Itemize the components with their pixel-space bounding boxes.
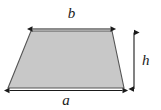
label-bottom-side-a: a xyxy=(0,93,132,108)
trapezoid-figure: b a h xyxy=(0,0,161,110)
label-height-h: h xyxy=(142,53,150,68)
label-top-side-b: b xyxy=(0,6,143,21)
trapezoid-shape xyxy=(8,31,124,88)
